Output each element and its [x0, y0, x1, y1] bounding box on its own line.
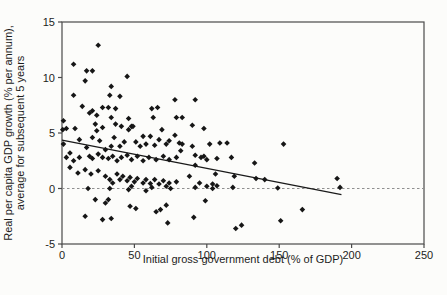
data-point	[108, 115, 114, 121]
data-point	[75, 170, 81, 176]
data-point	[203, 198, 209, 204]
data-point	[108, 84, 114, 90]
data-point	[133, 206, 139, 212]
data-point	[190, 122, 196, 128]
data-point	[103, 173, 109, 179]
data-point	[217, 140, 223, 146]
data-point	[71, 61, 77, 67]
data-point	[149, 106, 155, 112]
plot-frame	[62, 22, 424, 244]
data-point	[108, 216, 114, 222]
data-point	[140, 158, 146, 164]
data-point	[207, 141, 213, 147]
data-point	[233, 226, 239, 232]
data-point	[174, 155, 180, 161]
data-point	[191, 215, 197, 221]
data-point	[95, 43, 101, 49]
data-point	[72, 126, 78, 132]
data-point	[124, 74, 130, 80]
x-tick-label: 200	[342, 249, 360, 261]
data-point	[94, 128, 100, 134]
data-point	[229, 155, 235, 161]
data-point	[155, 105, 161, 111]
data-point	[192, 97, 198, 103]
data-point	[148, 134, 154, 140]
data-point	[100, 217, 106, 223]
data-point	[224, 140, 230, 146]
data-point	[140, 134, 146, 140]
data-point	[67, 150, 73, 156]
y-tick-label: 15	[43, 16, 55, 28]
data-point	[94, 112, 100, 118]
data-point	[159, 127, 165, 133]
data-point	[127, 203, 133, 209]
data-point	[129, 157, 135, 163]
data-point	[150, 115, 156, 121]
data-point	[90, 68, 96, 74]
data-point	[174, 179, 180, 185]
data-point	[143, 141, 149, 147]
data-point	[230, 185, 236, 191]
data-point	[192, 185, 198, 191]
plot-canvas: 050100150200250-5051015 Initial gross go…	[0, 0, 447, 295]
data-point	[107, 186, 113, 192]
data-point	[119, 155, 125, 161]
y-tick-label: 10	[43, 72, 55, 84]
data-point	[108, 144, 114, 150]
data-point	[210, 186, 216, 192]
data-point	[161, 154, 167, 160]
data-point	[113, 121, 119, 127]
data-point	[79, 104, 85, 110]
data-point	[146, 155, 152, 161]
data-point	[281, 141, 287, 147]
data-point	[117, 94, 123, 100]
data-point	[114, 171, 120, 177]
data-point	[100, 105, 106, 111]
data-point	[133, 139, 139, 145]
data-point	[334, 176, 340, 182]
data-point	[77, 137, 83, 143]
data-point	[67, 165, 73, 171]
data-point	[137, 144, 143, 150]
data-point	[71, 92, 77, 98]
data-point	[82, 78, 88, 84]
y-axis-label: Real per capita GDP growth (% per annum)…	[2, 25, 26, 241]
x-tick-label: 0	[59, 249, 65, 261]
data-point	[275, 185, 281, 191]
data-point	[64, 155, 70, 161]
data-point	[262, 177, 268, 183]
data-point	[71, 158, 77, 164]
data-point	[163, 202, 169, 208]
data-point	[82, 167, 88, 173]
data-point	[179, 115, 185, 121]
data-point	[253, 176, 259, 182]
data-point	[95, 168, 101, 174]
y-tick-label: -5	[45, 238, 55, 250]
data-point	[252, 160, 258, 166]
data-point	[278, 218, 284, 224]
data-point	[111, 135, 117, 141]
data-point	[93, 121, 99, 127]
data-point	[165, 220, 171, 226]
data-point	[152, 177, 158, 183]
data-point	[114, 158, 120, 164]
data-point	[95, 151, 101, 157]
data-point	[100, 125, 106, 131]
data-point	[172, 132, 178, 138]
x-tick-label: 50	[128, 249, 140, 261]
data-point	[201, 126, 207, 132]
data-point	[156, 181, 162, 187]
data-point	[82, 213, 88, 219]
data-point	[119, 124, 125, 130]
data-point	[93, 197, 99, 203]
data-point	[172, 97, 178, 103]
data-point	[90, 135, 96, 141]
data-point	[213, 171, 219, 177]
data-point	[187, 173, 193, 179]
chart-generated-layer: 050100150200250-5051015	[43, 16, 433, 261]
data-point	[100, 155, 106, 161]
data-point	[300, 207, 306, 213]
x-axis-label: Initial gross government debt (% of GDP)	[143, 253, 344, 265]
data-point	[174, 115, 180, 121]
data-point	[121, 139, 127, 145]
